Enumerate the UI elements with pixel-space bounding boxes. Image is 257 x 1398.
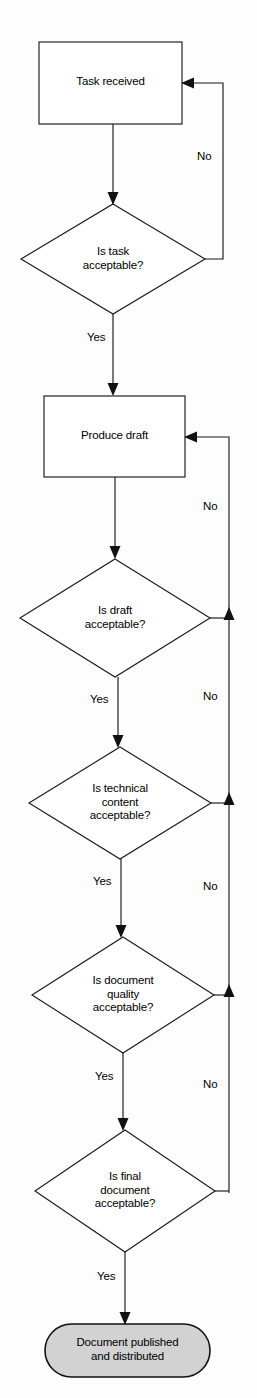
edge-label-final-no: No [203, 1078, 218, 1090]
arrowhead-left-to-task-received [181, 78, 194, 89]
edge-label-quality-yes: Yes [95, 1070, 113, 1082]
arrowhead-up-from-draft-no [224, 607, 235, 620]
arrowhead-up-from-quality-no [224, 984, 235, 997]
arrowhead-down-to-produce-draft [108, 383, 119, 396]
node-is-task-acceptable-shape[interactable] [21, 204, 205, 314]
node-produce-draft-shape[interactable] [44, 396, 185, 477]
edge-label-task-yes: Yes [87, 331, 105, 343]
edge-label-draft-yes: Yes [90, 693, 108, 705]
edge-label-draft-no: No [203, 500, 218, 512]
arrowhead-left-to-produce-draft [184, 432, 197, 443]
flowchart-canvas [0, 0, 257, 1398]
edge-label-final-yes: Yes [97, 1270, 115, 1282]
arrowhead-down-to-is-technical-content-acceptable [113, 735, 124, 748]
edge-task-no-return [190, 83, 223, 259]
arrowhead-up-from-technical-no [224, 792, 235, 805]
arrowhead-down-to-is-document-quality-acceptable [116, 925, 127, 938]
edge-label-technical-no: No [203, 690, 218, 702]
node-is-technical-content-acceptable-shape[interactable] [29, 747, 211, 859]
arrowhead-down-to-is-final-document-acceptable [118, 1118, 129, 1131]
arrowhead-down-to-is-task-acceptable [108, 192, 119, 205]
node-is-draft-acceptable-shape[interactable] [20, 559, 210, 677]
node-is-final-document-acceptable-shape[interactable] [35, 1130, 215, 1252]
edge-label-technical-yes: Yes [93, 875, 111, 887]
arrowhead-down-to-document-published [120, 1312, 131, 1325]
node-document-published-shape[interactable] [45, 1324, 210, 1377]
node-is-document-quality-acceptable-shape[interactable] [32, 937, 214, 1053]
arrowhead-down-to-is-draft-acceptable [110, 546, 121, 559]
edge-label-task-no: No [197, 150, 212, 162]
flowchart-diagram: Task received Is task acceptable? Produc… [0, 0, 257, 1398]
edge-label-quality-no: No [203, 880, 218, 892]
node-task-received-shape[interactable] [39, 42, 182, 124]
